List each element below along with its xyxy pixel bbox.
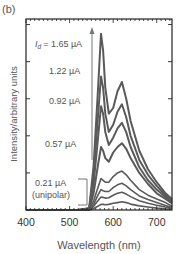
x-tick-label: 400: [17, 216, 35, 228]
annotation-0-92: 0.92 µA: [49, 96, 80, 106]
x-tick-label: 700: [148, 216, 166, 228]
annotation-0-57: 0.57 µA: [45, 139, 76, 149]
annotation-1-22: 1.22 µA: [49, 66, 80, 76]
unipolar-bracket: [78, 179, 87, 205]
annotation-0-21: 0.21 µA: [35, 178, 66, 188]
y-axis-label: Intensity/arbitrary units: [8, 66, 19, 162]
x-tick-label: 600: [104, 216, 122, 228]
spectrum-chart: (b) 400500600700 Wavelength (nm) Intensi…: [0, 0, 179, 254]
x-tick-label: 500: [61, 216, 79, 228]
panel-label: (b): [2, 3, 15, 15]
annotation-unipolar: (unipolar): [32, 190, 70, 200]
annotation-1-65: Id= 1.65 µA: [35, 39, 82, 50]
x-axis-label: Wavelength (nm): [57, 239, 140, 251]
arrow-head-icon: [90, 27, 95, 34]
